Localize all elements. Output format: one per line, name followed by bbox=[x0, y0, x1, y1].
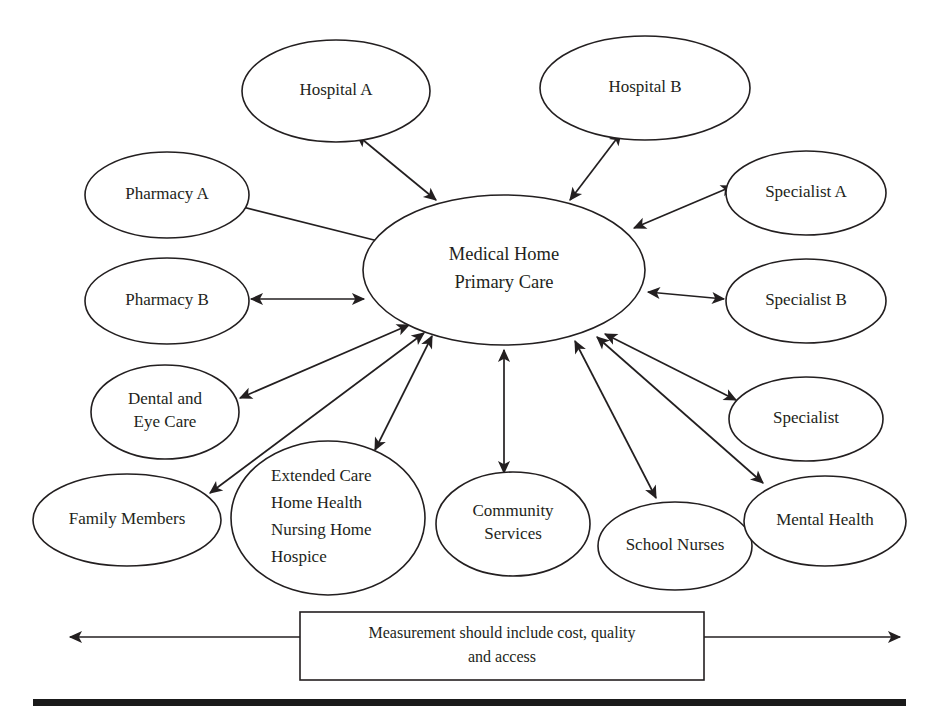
node-label-pharmacy-b: Pharmacy B bbox=[125, 290, 209, 309]
node-pharmacy-a[interactable]: Pharmacy A bbox=[85, 152, 249, 238]
bottom-rule bbox=[33, 699, 906, 706]
node-label-specialist-a: Specialist A bbox=[765, 182, 847, 201]
edge-specialist-a bbox=[634, 186, 733, 228]
diagram-canvas: Hospital AHospital BPharmacy APharmacy B… bbox=[0, 0, 934, 725]
edge-school-nurses bbox=[575, 341, 656, 498]
node-family-members[interactable]: Family Members bbox=[33, 474, 221, 566]
node-label-extended-care: Hospice bbox=[271, 547, 327, 566]
node-label-community-services: Community bbox=[472, 501, 554, 520]
node-label-specialist-b: Specialist B bbox=[765, 290, 847, 309]
measurement-layer: Measurement should include cost, quality… bbox=[70, 612, 900, 680]
bottom-rule-layer bbox=[33, 699, 906, 706]
node-label-pharmacy-a: Pharmacy A bbox=[125, 184, 209, 203]
edge-dental-and-eye-care bbox=[240, 325, 409, 398]
node-hospital-b[interactable]: Hospital B bbox=[540, 36, 750, 140]
node-label-school-nurses: School Nurses bbox=[626, 535, 725, 554]
node-label-family-members: Family Members bbox=[69, 509, 186, 528]
edge-hospital-b bbox=[570, 133, 621, 200]
node-specialist-a[interactable]: Specialist A bbox=[726, 151, 886, 235]
medical-home-network-diagram: Hospital AHospital BPharmacy APharmacy B… bbox=[0, 0, 934, 725]
node-label-hospital-a: Hospital A bbox=[299, 80, 373, 99]
node-dental-and-eye-care[interactable]: Dental andEye Care bbox=[91, 365, 239, 459]
measurement-label: Measurement should include cost, quality bbox=[368, 624, 635, 642]
node-specialist[interactable]: Specialist bbox=[729, 377, 883, 461]
center-node-layer: Medical HomePrimary Care bbox=[363, 195, 645, 345]
node-specialist-b[interactable]: Specialist B bbox=[726, 259, 886, 343]
node-label-medical-home: Medical Home bbox=[449, 244, 559, 264]
node-label-hospital-b: Hospital B bbox=[608, 77, 681, 96]
edge-specialist bbox=[605, 334, 736, 400]
node-label-specialist: Specialist bbox=[773, 408, 839, 427]
node-extended-care[interactable]: Extended CareHome HealthNursing HomeHosp… bbox=[231, 441, 425, 595]
node-medical-home[interactable]: Medical HomePrimary Care bbox=[363, 195, 645, 345]
node-label-mental-health: Mental Health bbox=[776, 510, 874, 529]
node-label-medical-home: Primary Care bbox=[454, 272, 553, 292]
node-ellipse-extended-care bbox=[231, 441, 425, 595]
node-label-extended-care: Extended Care bbox=[271, 466, 372, 485]
measurement-label: and access bbox=[468, 648, 536, 665]
measurement-box bbox=[300, 612, 704, 680]
node-hospital-a[interactable]: Hospital A bbox=[242, 40, 430, 142]
node-label-dental-and-eye-care: Eye Care bbox=[134, 412, 197, 431]
edge-hospital-a bbox=[357, 135, 436, 200]
node-mental-health[interactable]: Mental Health bbox=[744, 476, 906, 566]
node-label-extended-care: Nursing Home bbox=[271, 520, 372, 539]
node-label-extended-care: Home Health bbox=[271, 493, 363, 512]
node-community-services[interactable]: CommunityServices bbox=[436, 472, 590, 576]
edge-extended-care bbox=[375, 336, 432, 450]
node-label-dental-and-eye-care: Dental and bbox=[128, 389, 203, 408]
node-school-nurses[interactable]: School Nurses bbox=[598, 502, 752, 590]
node-ellipse-medical-home bbox=[363, 195, 645, 345]
node-pharmacy-b[interactable]: Pharmacy B bbox=[85, 258, 249, 344]
node-label-community-services: Services bbox=[484, 524, 542, 543]
edge-specialist-b bbox=[648, 292, 724, 299]
